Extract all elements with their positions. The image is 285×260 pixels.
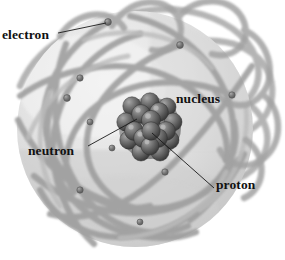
label-neutron: neutron [28,144,74,158]
atom-diagram: electron nucleus neutron proton [0,0,285,260]
label-proton: proton [216,178,255,192]
label-electron: electron [2,28,49,42]
label-nucleus: nucleus [176,92,220,106]
